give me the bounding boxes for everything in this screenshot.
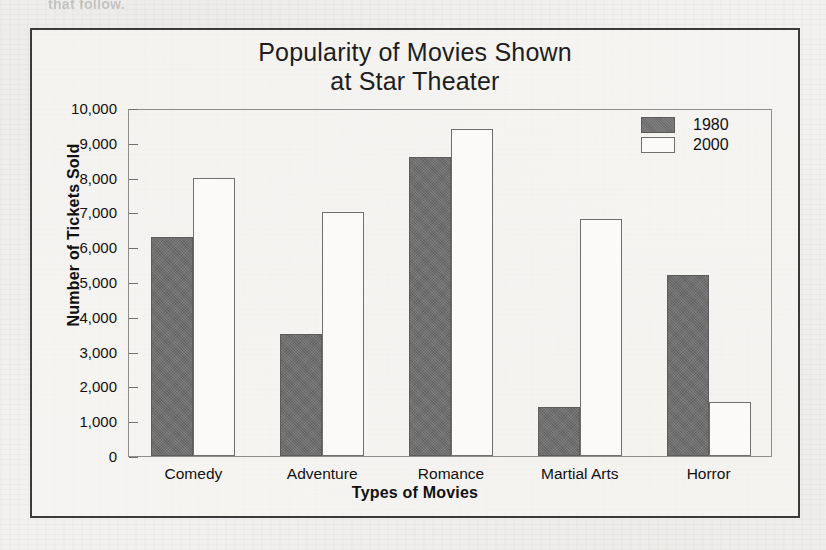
bar-adventure-2000[interactable]	[322, 212, 364, 456]
y-tick-label: 5,000	[79, 274, 117, 291]
plot-area: 10,0009,0008,0007,0006,0005,0004,0003,00…	[128, 109, 772, 457]
legend-item-2000[interactable]: 2000	[641, 136, 729, 154]
x-category-label: Horror	[687, 465, 731, 483]
bar-martial-arts-2000[interactable]	[580, 219, 622, 456]
bar-group: Comedy	[151, 110, 235, 456]
bar-group: Adventure	[280, 110, 364, 456]
y-tick-label: 6,000	[79, 239, 117, 256]
chart-title-line-2: at Star Theater	[32, 67, 798, 96]
bar-group: Romance	[409, 110, 493, 456]
y-tick-label: 1,000	[79, 413, 117, 430]
x-category-label: Romance	[418, 465, 484, 483]
bar-group: Horror	[667, 110, 751, 456]
x-category-label: Adventure	[287, 465, 358, 483]
bar-adventure-1980[interactable]	[280, 334, 322, 456]
y-tick-label: 9,000	[79, 135, 117, 152]
x-category-label: Comedy	[165, 465, 223, 483]
y-tick-label: 0	[109, 448, 117, 465]
bar-romance-1980[interactable]	[409, 157, 451, 456]
bar-romance-2000[interactable]	[451, 129, 493, 456]
x-axis-label: Types of Movies	[32, 484, 798, 502]
y-tick-label: 3,000	[79, 344, 117, 361]
legend-label-2000: 2000	[693, 136, 729, 154]
chart-title-line-1: Popularity of Movies Shown	[32, 38, 798, 67]
y-tick-mark	[129, 457, 138, 458]
bars-layer: ComedyAdventureRomanceMartial ArtsHorror	[129, 110, 771, 456]
legend-swatch-1980	[641, 117, 675, 133]
bar-horror-2000[interactable]	[709, 402, 751, 456]
y-tick-label: 4,000	[79, 309, 117, 326]
legend-label-1980: 1980	[693, 116, 729, 134]
page-bleed-text-top: that follow.	[48, 0, 125, 12]
bar-horror-1980[interactable]	[667, 275, 709, 456]
chart-title: Popularity of Movies Shown at Star Theat…	[32, 38, 798, 96]
y-tick-label: 10,000	[71, 100, 117, 117]
x-category-label: Martial Arts	[541, 465, 619, 483]
bar-martial-arts-1980[interactable]	[538, 407, 580, 456]
bar-comedy-1980[interactable]	[151, 237, 193, 456]
chart-figure-frame: Popularity of Movies Shown at Star Theat…	[30, 28, 800, 518]
y-tick-label: 2,000	[79, 378, 117, 395]
legend-swatch-2000	[641, 137, 675, 153]
legend-item-1980[interactable]: 1980	[641, 116, 729, 134]
bar-comedy-2000[interactable]	[193, 178, 235, 456]
y-tick-label: 7,000	[79, 204, 117, 221]
bar-group: Martial Arts	[538, 110, 622, 456]
chart-legend: 19802000	[641, 116, 729, 154]
y-tick-label: 8,000	[79, 170, 117, 187]
